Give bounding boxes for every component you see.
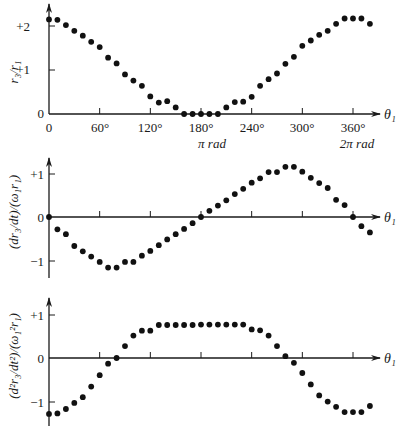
data-point — [164, 322, 170, 328]
x-tick-label: 180° — [189, 120, 214, 135]
data-point — [131, 333, 137, 339]
x-tick-label: 120° — [138, 120, 163, 135]
data-point — [139, 83, 145, 89]
data-point — [46, 214, 52, 220]
data-point — [190, 220, 196, 226]
data-point — [156, 100, 162, 106]
data-point — [249, 180, 255, 186]
data-point — [249, 327, 255, 333]
data-point — [131, 78, 137, 84]
data-point — [223, 322, 229, 328]
data-point — [299, 43, 305, 49]
y-tick-label: +2 — [16, 19, 30, 34]
data-point — [249, 94, 255, 100]
data-point — [316, 32, 322, 38]
data-point — [325, 185, 331, 191]
data-point — [71, 243, 77, 249]
data-point — [88, 39, 94, 45]
data-point — [63, 22, 69, 28]
data-point — [359, 223, 365, 229]
data-point — [333, 21, 339, 27]
data-point — [232, 191, 238, 197]
data-point — [283, 164, 289, 170]
data-point — [274, 169, 280, 175]
data-point — [181, 111, 187, 117]
y-tick-label: +1 — [30, 308, 44, 323]
data-point — [122, 343, 128, 349]
y-tick-label: +1 — [30, 167, 44, 182]
data-point — [156, 242, 162, 248]
data-point — [240, 186, 246, 192]
data-point — [359, 409, 365, 415]
data-point — [114, 355, 120, 361]
data-point — [223, 197, 229, 203]
data-point — [291, 360, 297, 366]
data-point — [215, 203, 221, 209]
data-point — [46, 17, 52, 23]
data-point — [333, 197, 339, 203]
x-ticks — [100, 211, 353, 217]
data-point — [350, 409, 356, 415]
data-point — [122, 259, 128, 265]
data-point — [257, 327, 263, 333]
data-point — [181, 226, 187, 232]
panel-velocity: +1 0 −1 θ₁ (dr₃/dt)/(ω₁r₁) — [6, 158, 396, 278]
data-point — [173, 322, 179, 328]
data-point — [164, 237, 170, 243]
data-point — [333, 404, 339, 410]
data-point — [131, 259, 137, 265]
x-tick-label: 0 — [46, 120, 53, 135]
data-point — [350, 16, 356, 22]
data-point — [367, 230, 373, 236]
data-point — [198, 214, 204, 220]
data-point — [97, 372, 103, 378]
data-point — [122, 72, 128, 78]
data-point — [274, 343, 280, 349]
data-point — [215, 111, 221, 117]
x-tick-label: 60° — [91, 120, 109, 135]
data-point — [105, 361, 111, 367]
data-point — [299, 169, 305, 175]
data-point — [223, 105, 229, 111]
data-point — [139, 328, 145, 334]
data-point — [325, 399, 331, 405]
x-ticks — [100, 352, 353, 358]
data-point — [139, 253, 145, 259]
data-point — [97, 44, 103, 50]
x-tick-label: 240° — [240, 120, 265, 135]
x-axis-title: θ₁ — [384, 351, 396, 366]
data-point — [181, 322, 187, 328]
data-point — [173, 105, 179, 111]
data-point — [207, 111, 213, 117]
x-tick-label: 360° — [341, 120, 366, 135]
y-axis-title: r₃/r₁ — [6, 61, 21, 84]
data-point — [147, 328, 153, 334]
data-points — [46, 322, 373, 417]
data-point — [114, 265, 120, 271]
panel-position: +2 +1 0 0 60° 120° 180° 240° 300° 360° π… — [6, 4, 396, 151]
data-point — [88, 254, 94, 260]
data-point — [232, 322, 238, 328]
x-axis-title: θ₁ — [384, 107, 396, 122]
data-point — [266, 76, 272, 82]
panel-acceleration: +1 0 −1 θ₁ (d²r₃/dt²)/(ω₁²r₁) — [6, 298, 396, 426]
data-point — [190, 111, 196, 117]
y-axis-title: (dr₃/dt)/(ω₁r₁) — [6, 175, 21, 249]
data-point — [308, 382, 314, 388]
data-point — [164, 98, 170, 104]
data-point — [147, 248, 153, 254]
data-point — [257, 83, 263, 89]
y-tick-label: 0 — [38, 210, 45, 225]
data-point — [283, 353, 289, 359]
data-point — [156, 322, 162, 328]
data-point — [367, 21, 373, 27]
kinematics-figure: +2 +1 0 0 60° 120° 180° 240° 300° 360° π… — [0, 0, 403, 428]
two-pi-rad-label: 2π rad — [340, 136, 375, 151]
data-point — [114, 61, 120, 67]
data-points — [46, 16, 373, 117]
data-point — [274, 71, 280, 77]
data-point — [257, 175, 263, 181]
data-point — [325, 28, 331, 34]
data-point — [71, 400, 77, 406]
data-point — [316, 180, 322, 186]
